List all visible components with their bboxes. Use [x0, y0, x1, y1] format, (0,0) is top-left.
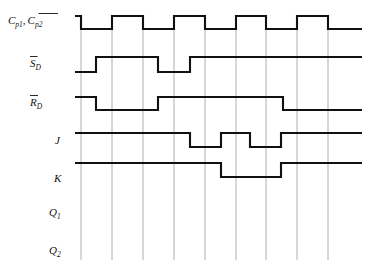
waveform-K	[75, 163, 362, 177]
signal-labels-group: Cp1,Cp2 SD RD J K	[8, 14, 62, 259]
label-rd-sub: D	[36, 102, 43, 111]
waveform-S_D_bar	[75, 57, 362, 72]
label-sd-sub: D	[35, 63, 42, 72]
label-rd-text: RD	[29, 96, 43, 111]
waveform-R_D_bar	[75, 97, 362, 110]
timing-diagram-canvas: Cp1,Cp2 SD RD J K	[0, 0, 376, 272]
waveform-J	[75, 133, 362, 147]
label-q2-main: Q	[49, 244, 57, 256]
label-q1-main: Q	[49, 206, 57, 218]
label-clock-comma: ,	[23, 14, 26, 26]
label-rd: RD	[29, 96, 43, 111]
label-q1-sub: 1	[57, 212, 61, 221]
label-sd: SD	[30, 57, 42, 72]
label-sd-text: SD	[30, 57, 42, 72]
label-j: J	[55, 134, 61, 146]
waveforms-group	[75, 16, 362, 177]
label-q2-text: Q2	[49, 244, 61, 259]
timing-diagram-figure: Cp1,Cp2 SD RD J K	[0, 0, 376, 272]
label-clock-sub2: p2	[34, 20, 43, 29]
label-clock-sub1: p1	[14, 20, 23, 29]
label-q2-sub: 2	[57, 250, 61, 259]
gridlines-group	[81, 18, 328, 260]
label-clock-text: Cp1,Cp2	[8, 14, 43, 29]
label-q1-text: Q1	[49, 206, 61, 221]
label-k: K	[53, 172, 62, 184]
waveform-C_p1, C_p2_bar	[75, 16, 362, 29]
label-clock: Cp1,Cp2	[8, 14, 58, 29]
